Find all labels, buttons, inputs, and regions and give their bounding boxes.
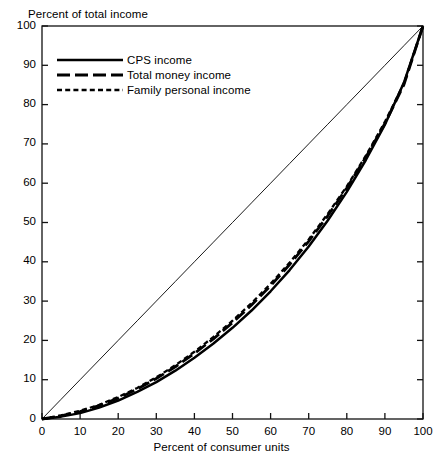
legend-label-cps-income: CPS income bbox=[127, 54, 192, 66]
y-tick-label: 90 bbox=[6, 58, 36, 70]
y-tick-label: 100 bbox=[6, 19, 36, 31]
y-tick-label: 60 bbox=[6, 176, 36, 188]
x-tick-label: 20 bbox=[103, 425, 133, 437]
y-tick-label: 70 bbox=[6, 136, 36, 148]
x-tick-label: 100 bbox=[408, 425, 438, 437]
x-tick-label: 60 bbox=[256, 425, 286, 437]
x-tick-label: 70 bbox=[294, 425, 324, 437]
x-tick-label: 30 bbox=[141, 425, 171, 437]
x-tick-label: 10 bbox=[65, 425, 95, 437]
legend-swatch-short-dash bbox=[57, 84, 123, 96]
y-tick-label: 0 bbox=[6, 412, 36, 424]
legend-swatch-solid bbox=[57, 54, 123, 66]
legend-label-total-money-income: Total money income bbox=[127, 69, 231, 81]
legend-swatch-long-dash bbox=[57, 69, 123, 81]
y-tick-label: 30 bbox=[6, 294, 36, 306]
x-tick-label: 80 bbox=[332, 425, 362, 437]
y-tick-label: 10 bbox=[6, 372, 36, 384]
legend-item: Family personal income bbox=[57, 82, 251, 97]
x-tick-label: 90 bbox=[370, 425, 400, 437]
x-axis-title: Percent of consumer units bbox=[0, 441, 443, 453]
chart-legend: CPS income Total money income Family per… bbox=[57, 52, 251, 97]
legend-item: Total money income bbox=[57, 67, 251, 82]
y-tick-label: 40 bbox=[6, 254, 36, 266]
lorenz-curve-chart: Percent of total income 0102030405060708… bbox=[0, 0, 443, 462]
legend-item: CPS income bbox=[57, 52, 251, 67]
x-tick-label: 50 bbox=[218, 425, 248, 437]
x-tick-label: 0 bbox=[27, 425, 57, 437]
x-tick-label: 40 bbox=[179, 425, 209, 437]
y-tick-label: 80 bbox=[6, 97, 36, 109]
legend-label-family-personal-income: Family personal income bbox=[127, 84, 251, 96]
y-tick-label: 50 bbox=[6, 215, 36, 227]
y-tick-label: 20 bbox=[6, 333, 36, 345]
